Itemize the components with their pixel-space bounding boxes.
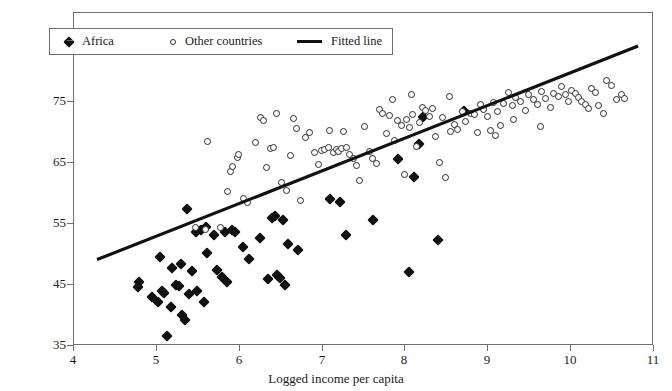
data-point-other-countries <box>340 128 347 135</box>
legend-label-africa: Africa <box>82 34 114 49</box>
data-point-other-countries <box>293 125 300 132</box>
data-point-other-countries <box>229 163 236 170</box>
data-point-other-countries <box>204 138 211 145</box>
data-point-other-countries <box>353 162 360 169</box>
data-point-other-countries <box>202 226 209 233</box>
data-point-africa <box>158 287 169 298</box>
data-point-other-countries <box>406 124 413 131</box>
data-point-africa <box>243 253 254 264</box>
data-point-other-countries <box>497 122 504 129</box>
data-point-africa <box>187 265 198 276</box>
data-point-other-countries <box>260 117 267 124</box>
data-point-africa <box>324 193 335 204</box>
x-tick-mark <box>487 345 488 351</box>
y-tick-mark <box>67 284 73 285</box>
data-point-other-countries <box>273 110 280 117</box>
legend-entry-africa: Africa <box>65 29 114 54</box>
data-point-other-countries <box>462 118 469 125</box>
line-swatch-icon <box>297 40 322 43</box>
data-point-other-countries <box>558 83 565 90</box>
x-tick-label: 9 <box>472 353 502 367</box>
x-tick-mark <box>322 345 323 351</box>
data-point-africa <box>404 266 415 277</box>
data-point-other-countries <box>436 159 443 166</box>
data-point-africa <box>367 214 378 225</box>
data-point-other-countries <box>490 99 497 106</box>
data-point-africa <box>334 196 345 207</box>
data-point-other-countries <box>522 107 529 114</box>
x-tick-label: 6 <box>224 353 254 367</box>
x-tick-label: 7 <box>307 353 337 367</box>
data-point-other-countries <box>621 95 628 102</box>
chart-legend: Africa Other countries Fitted line <box>49 28 393 55</box>
data-point-other-countries <box>398 122 405 129</box>
data-point-other-countries <box>263 164 270 171</box>
x-tick-mark <box>239 345 240 351</box>
data-point-africa <box>279 280 290 291</box>
y-tick-label: 35 <box>53 338 66 351</box>
x-tick-label: 11 <box>638 353 668 367</box>
data-point-other-countries <box>361 123 368 130</box>
data-point-other-countries <box>429 105 436 112</box>
data-point-other-countries <box>547 104 554 111</box>
data-point-other-countries <box>270 144 277 151</box>
data-point-other-countries <box>409 111 416 118</box>
data-point-africa <box>432 234 443 245</box>
data-point-other-countries <box>373 160 380 167</box>
x-tick-label: 5 <box>141 353 171 367</box>
data-point-other-countries <box>343 144 350 151</box>
data-point-other-countries <box>315 161 322 168</box>
x-tick-mark <box>156 345 157 351</box>
data-point-africa <box>182 203 193 214</box>
plot-data-area <box>73 12 653 345</box>
data-point-other-countries <box>565 98 572 105</box>
data-point-other-countries <box>484 113 491 120</box>
data-point-other-countries <box>442 174 449 181</box>
data-point-africa <box>255 232 266 243</box>
data-point-other-countries <box>538 88 545 95</box>
data-point-other-countries <box>592 89 599 96</box>
data-point-other-countries <box>278 179 285 186</box>
x-tick-label: 4 <box>58 353 88 367</box>
data-point-africa <box>208 230 219 241</box>
y-tick-label: 75 <box>53 94 66 107</box>
x-tick-mark <box>404 345 405 351</box>
data-point-other-countries <box>439 114 446 121</box>
data-point-other-countries <box>494 108 501 115</box>
data-point-africa <box>165 301 176 312</box>
data-point-other-countries <box>224 188 231 195</box>
data-point-other-countries <box>608 82 615 89</box>
data-point-africa <box>198 297 209 308</box>
data-point-other-countries <box>401 171 408 178</box>
x-tick-label: 10 <box>555 353 585 367</box>
y-tick-label: 45 <box>53 277 66 290</box>
data-point-other-countries <box>510 116 517 123</box>
data-point-africa <box>237 242 248 253</box>
scatter-plot-figure: 354555657585 Africa Other countries Fitt… <box>0 0 672 391</box>
open-circle-icon <box>170 39 176 45</box>
data-point-other-countries <box>356 177 363 184</box>
data-point-other-countries <box>326 127 333 134</box>
x-tick-mark <box>570 345 571 351</box>
legend-entry-fitted-line: Fitted line <box>297 29 382 54</box>
y-tick-mark <box>67 40 73 41</box>
data-point-other-countries <box>366 148 373 155</box>
y-tick-label: 65 <box>53 155 66 168</box>
legend-entry-other-countries: Other countries <box>169 29 262 54</box>
data-point-other-countries <box>217 224 224 231</box>
data-point-africa <box>341 230 352 241</box>
data-point-other-countries <box>386 112 393 119</box>
data-point-other-countries <box>426 113 433 120</box>
data-point-other-countries <box>403 116 410 123</box>
y-tick-label: 55 <box>53 216 66 229</box>
data-point-other-countries <box>413 143 420 150</box>
data-point-other-countries <box>446 93 453 100</box>
data-point-africa <box>162 330 173 341</box>
data-point-other-countries <box>391 137 398 144</box>
data-point-other-countries <box>287 152 294 159</box>
y-tick-mark <box>67 162 73 163</box>
data-point-other-countries <box>542 95 549 102</box>
data-point-other-countries <box>432 133 439 140</box>
x-axis-title: Logged income per capita <box>0 371 672 386</box>
y-axis-tick-labels: 354555657585 <box>0 0 66 391</box>
